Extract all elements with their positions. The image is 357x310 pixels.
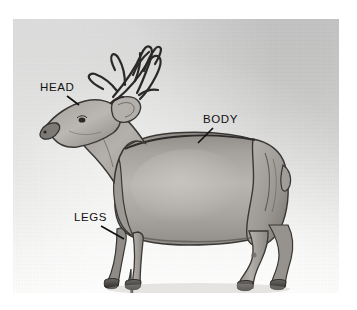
deer-drawing [13,19,339,293]
deer-antlers [89,46,161,103]
deer-tail [281,165,291,191]
annotation-label-body: BODY [203,114,238,126]
annotation-label-head: HEAD [40,82,74,94]
deer-body-group [114,132,289,246]
deer-nostril [43,130,46,133]
deer-ear [112,97,141,123]
figure-canvas: HEAD BODY LEGS [0,0,357,310]
deer-eye [79,117,86,122]
antler-right-tine-3 [89,74,117,91]
antler-left-tine-3 [139,90,158,95]
annotation-label-legs: LEGS [74,212,107,224]
deer-photo-plate [13,19,339,293]
deer-flank-highlight [131,149,247,225]
antler-right-tine-2 [111,54,125,85]
deer-hock-joint [251,252,256,257]
